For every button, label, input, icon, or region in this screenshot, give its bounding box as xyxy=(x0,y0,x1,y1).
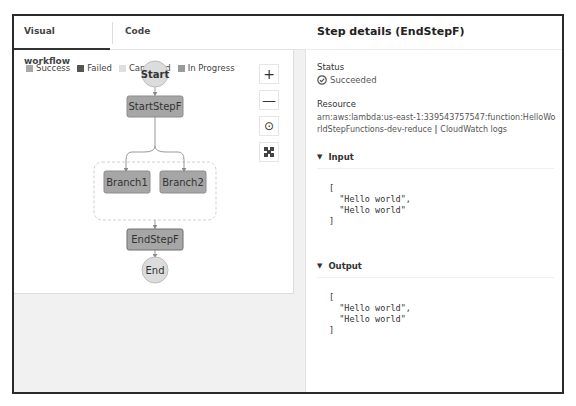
resource-label: Resource xyxy=(317,99,554,109)
edge-to-branch2 xyxy=(155,146,184,170)
fit-to-screen-button[interactable] xyxy=(259,142,279,162)
input-label: Input xyxy=(328,152,353,162)
endstep-node[interactable]: EndStepF xyxy=(127,229,183,250)
input-section-toggle[interactable]: ▼ Input xyxy=(317,152,554,169)
caret-down-icon: ▼ xyxy=(317,262,322,270)
caret-down-icon: ▼ xyxy=(317,153,322,161)
end-label: End xyxy=(145,265,164,276)
start-node[interactable]: Start xyxy=(141,61,170,87)
cloudwatch-logs-link[interactable]: CloudWatch logs xyxy=(440,125,507,134)
center-button[interactable]: ⊙ xyxy=(259,116,279,136)
startstep-node[interactable]: StartStepF xyxy=(127,96,183,117)
step-details-title: Step details (EndStepF) xyxy=(307,16,564,50)
startstep-label: StartStepF xyxy=(129,101,182,112)
tab-code[interactable]: Code xyxy=(112,22,160,44)
plus-icon: + xyxy=(263,66,275,82)
tab-bar: Visual workflow Code xyxy=(14,16,306,50)
step-functions-console: Visual workflow Code Success Failed Canc… xyxy=(12,14,564,394)
branch1-node[interactable]: Branch1 xyxy=(104,171,150,193)
branch1-label: Branch1 xyxy=(106,177,148,188)
output-section-toggle[interactable]: ▼ Output xyxy=(317,261,554,278)
target-icon: ⊙ xyxy=(264,119,274,133)
zoom-controls: + — ⊙ xyxy=(259,64,281,168)
start-label: Start xyxy=(141,69,170,80)
zoom-out-button[interactable]: — xyxy=(259,90,279,110)
status-text: Succeeded xyxy=(330,75,377,85)
input-json: [ "Hello world", "Hello world" ] xyxy=(329,183,554,227)
branch2-node[interactable]: Branch2 xyxy=(160,171,206,193)
end-node[interactable]: End xyxy=(142,257,168,283)
endstep-label: EndStepF xyxy=(131,234,179,245)
status-label: Status xyxy=(317,62,554,72)
step-details-pane: Step details (EndStepF) Status Succeeded… xyxy=(307,16,564,392)
fit-icon xyxy=(264,147,274,157)
workflow-graph: Start StartStepF Branch1 Branch2 EndStep… xyxy=(14,50,294,294)
check-circle-icon xyxy=(317,75,327,85)
output-json: [ "Hello world", "Hello world" ] xyxy=(329,292,554,336)
output-label: Output xyxy=(328,261,362,271)
status-value: Succeeded xyxy=(317,75,554,85)
zoom-in-button[interactable]: + xyxy=(259,64,279,84)
edge-to-branch1 xyxy=(126,146,155,170)
workflow-pane: Visual workflow Code Success Failed Canc… xyxy=(14,16,306,392)
minus-icon: — xyxy=(262,92,276,108)
resource-value: arn:aws:lambda:us-east-1:339543757547:fu… xyxy=(317,112,557,136)
tab-visual-workflow[interactable]: Visual workflow xyxy=(14,16,110,50)
branch2-label: Branch2 xyxy=(162,177,204,188)
